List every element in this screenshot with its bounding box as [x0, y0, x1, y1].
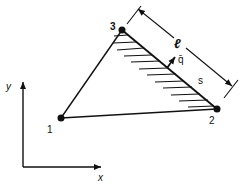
node-3-label: 3 — [110, 21, 116, 32]
node-3 — [119, 27, 126, 34]
node-1-label: 1 — [47, 124, 53, 135]
dimension-arrow-end — [186, 48, 232, 86]
load-label: q̄ — [178, 54, 184, 65]
distributed-load-hatching — [113, 35, 214, 107]
edge-2-3 — [122, 30, 217, 109]
y-axis-label: y — [5, 81, 12, 92]
length-label: ℓ — [174, 36, 181, 51]
length-dimension — [127, 6, 238, 98]
edge-3-1 — [61, 30, 122, 118]
triangle-edges — [61, 30, 217, 118]
extension-line-node-3 — [127, 6, 141, 24]
extension-line-node-2 — [224, 80, 238, 98]
dimension-arrow-start — [138, 9, 158, 25]
x-axis-label: x — [97, 172, 104, 183]
edge-coordinate-label: s — [198, 75, 203, 86]
node-2-label: 2 — [209, 115, 215, 126]
coordinate-axes: y x — [5, 81, 104, 183]
load-arrow-icon — [167, 57, 175, 68]
node-2 — [214, 106, 221, 113]
edge-1-2 — [61, 109, 217, 118]
nodes — [58, 27, 221, 122]
node-1 — [58, 115, 65, 122]
triangle-element-diagram: y x 1 2 3 ℓ q̄ — [0, 0, 242, 184]
